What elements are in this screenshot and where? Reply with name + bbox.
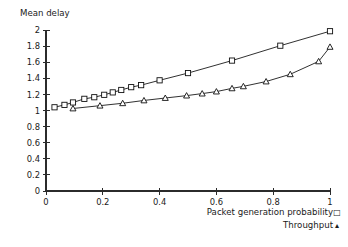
legend-item-throughput: Throughput▴: [207, 219, 341, 232]
x-axis-tick-label: 0.2: [96, 197, 109, 207]
y-axis-tick-label: 0.2: [27, 170, 40, 180]
y-axis-tick-label: 1: [35, 106, 40, 116]
series-line: [73, 47, 330, 109]
data-point-square: [229, 58, 234, 63]
data-point-triangle: [287, 71, 293, 76]
data-point-square: [129, 85, 134, 90]
triangle-marker-icon: ▴: [333, 220, 341, 232]
chart-legend: Packet generation probability□ Throughpu…: [207, 206, 341, 232]
y-axis-tick-label: 2: [35, 25, 40, 35]
data-point-square: [62, 102, 67, 107]
x-axis-tick-label: 0.4: [153, 197, 166, 207]
legend-label-throughput: Throughput: [283, 220, 333, 230]
series-throughput: [70, 44, 333, 111]
y-axis-tick-label: 1.2: [27, 90, 40, 100]
data-point-square: [185, 70, 190, 75]
data-point-square: [70, 100, 75, 105]
legend-item-packet-generation-probability: Packet generation probability□: [207, 206, 341, 219]
data-point-triangle: [327, 44, 333, 49]
y-axis-tick-label: 1.4: [27, 73, 40, 83]
data-point-square: [139, 83, 144, 88]
data-point-square: [110, 90, 115, 95]
data-point-square: [82, 96, 87, 101]
data-point-square: [92, 95, 97, 100]
series-packet-generation-probability: [52, 29, 333, 110]
y-axis-tick-label: 0.6: [27, 138, 40, 148]
square-marker-icon: □: [333, 207, 341, 219]
chart-container: Mean delay 00.20.40.60.811.21.41.61.8200…: [0, 0, 348, 247]
y-axis-tick-label: 0: [35, 186, 40, 196]
y-axis-tick-label: 1.8: [27, 41, 40, 51]
data-point-square: [102, 92, 107, 97]
x-axis-tick-label: 0: [43, 197, 48, 207]
data-point-square: [327, 29, 332, 34]
y-axis-tick-label: 0.4: [27, 154, 40, 164]
data-point-square: [278, 43, 283, 48]
data-point-square: [52, 105, 57, 110]
data-point-square: [157, 78, 162, 83]
legend-label-packet-generation-probability: Packet generation probability: [207, 207, 333, 217]
data-point-square: [119, 87, 124, 92]
y-axis-tick-label: 1.6: [27, 57, 40, 67]
y-axis-tick-label: 0.8: [27, 122, 40, 132]
